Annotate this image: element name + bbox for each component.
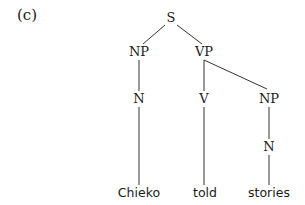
node-np1: NP xyxy=(129,44,149,59)
leaf-w3: stories xyxy=(248,185,290,200)
syntax-tree: SNPVPNVNPN Chiekotoldstories xyxy=(0,0,305,205)
node-np2: NP xyxy=(259,91,279,106)
edge-s-vp xyxy=(177,25,202,44)
node-n1: N xyxy=(133,91,144,106)
node-s: S xyxy=(167,10,176,25)
node-n2: N xyxy=(263,139,274,154)
node-v: V xyxy=(198,91,209,106)
node-vp: VP xyxy=(194,44,213,59)
tree-leaves: Chiekotoldstories xyxy=(118,185,290,200)
leaf-w1: Chieko xyxy=(118,185,160,200)
edge-vp-np2 xyxy=(204,60,267,89)
leaf-w2: told xyxy=(193,185,217,200)
edge-s-np1 xyxy=(143,25,165,44)
